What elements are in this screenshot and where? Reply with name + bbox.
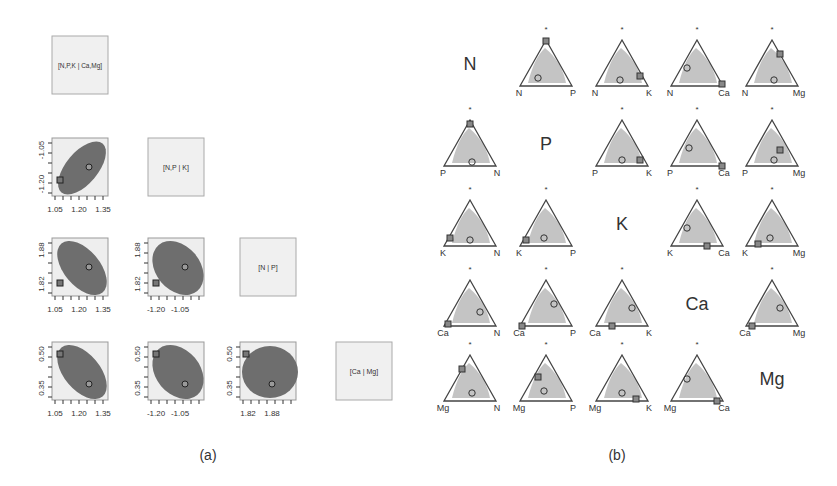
- square-marker: [719, 81, 725, 87]
- x-tick-label: 1.20: [71, 205, 87, 214]
- left-vertex-label: P: [592, 168, 598, 178]
- square-marker: [714, 398, 720, 404]
- y-tick-label: -1.05: [37, 140, 46, 159]
- ternary-plot: *KCa: [667, 185, 730, 258]
- ternary-plot: *NK: [592, 25, 652, 98]
- right-vertex-label: K: [646, 168, 652, 178]
- square-marker: [523, 237, 529, 243]
- x-tick-label: 1.35: [95, 205, 111, 214]
- apex-label: *: [544, 340, 547, 349]
- x-tick-label: 1.82: [240, 409, 256, 418]
- scatter-panel: 1.051.201.35-1.05-1.20: [37, 133, 115, 214]
- y-tick-label: 1.82: [133, 276, 142, 292]
- apex-label: *: [770, 185, 773, 194]
- scatter-panel: 1.051.201.350.500.35: [37, 336, 116, 418]
- x-tick-label: 1.20: [71, 409, 87, 418]
- right-vertex-label: Mg: [793, 168, 806, 178]
- x-tick-label: -1.05: [171, 305, 190, 314]
- left-vertex-label: P: [742, 168, 748, 178]
- ternary-plot: *MgK: [589, 340, 652, 413]
- ternary-plot: *KP: [516, 185, 576, 258]
- y-tick-label: 0.35: [133, 380, 142, 396]
- circle-marker: [182, 264, 188, 270]
- square-marker: [447, 235, 453, 241]
- left-vertex-label: Mg: [664, 403, 677, 413]
- ternary-plot: *CaK: [589, 265, 652, 338]
- ternary-plot: *MgN: [437, 340, 501, 413]
- caption-b: (b): [608, 447, 625, 463]
- scatter-panel: -1.20-1.051.881.82: [133, 231, 214, 314]
- diag-label-box: [N | P]: [240, 238, 296, 296]
- caption-a: (a): [199, 447, 216, 463]
- square-marker: [445, 321, 451, 327]
- square-marker: [637, 157, 643, 163]
- apex-label: *: [695, 340, 698, 349]
- part-label: P: [540, 134, 552, 154]
- x-tick-label: 1.20: [71, 305, 87, 314]
- part-label: K: [616, 214, 628, 234]
- apex-label: *: [695, 185, 698, 194]
- square-marker: [459, 366, 465, 372]
- ternary-plot: *PMg: [742, 105, 805, 178]
- ternary-plot: *MgP: [513, 340, 576, 413]
- circle-marker: [86, 264, 92, 270]
- square-marker: [57, 280, 63, 286]
- right-vertex-label: K: [646, 403, 652, 413]
- svg-text:[N | P]: [N | P]: [258, 264, 277, 272]
- svg-text:[Ca | Mg]: [Ca | Mg]: [350, 368, 378, 376]
- square-marker: [535, 374, 541, 380]
- ternary-plot: *KN: [440, 185, 500, 258]
- circle-marker: [269, 381, 275, 387]
- ternary-plot: *PN: [440, 105, 500, 178]
- x-tick-label: 1.88: [264, 409, 280, 418]
- x-tick-label: -1.20: [147, 305, 166, 314]
- square-marker: [467, 121, 473, 127]
- y-tick-label: 1.88: [37, 242, 46, 258]
- apex-label: *: [770, 25, 773, 34]
- right-vertex-label: Ca: [718, 88, 730, 98]
- right-vertex-label: K: [646, 88, 652, 98]
- ternary-plot: *CaMg: [739, 265, 805, 338]
- left-vertex-label: Ca: [589, 328, 601, 338]
- left-vertex-label: N: [592, 88, 599, 98]
- apex-label: *: [544, 25, 547, 34]
- svg-text:[N,P,K | Ca,Mg]: [N,P,K | Ca,Mg]: [58, 62, 102, 70]
- circle-marker: [86, 381, 92, 387]
- part-label: N: [464, 54, 477, 74]
- ternary-plot: *KMg: [742, 185, 805, 258]
- left-vertex-label: K: [440, 248, 446, 258]
- confidence-ellipse: [242, 346, 298, 398]
- part-label: Mg: [759, 369, 784, 389]
- apex-label: *: [468, 105, 471, 114]
- left-vertex-label: P: [667, 168, 673, 178]
- y-tick-label: -1.20: [37, 174, 46, 193]
- figure: [N,P,K | Ca,Mg][N,P | K][N | P][Ca | Mg]…: [0, 0, 837, 486]
- square-marker: [719, 163, 725, 169]
- ternary-plot: *PCa: [667, 105, 730, 178]
- scatter-panel: -1.20-1.050.500.35: [133, 335, 214, 418]
- left-vertex-label: N: [667, 88, 674, 98]
- square-marker: [543, 38, 549, 44]
- left-vertex-label: N: [516, 88, 523, 98]
- circle-marker: [86, 164, 92, 170]
- right-vertex-label: N: [494, 248, 501, 258]
- x-tick-label: 1.35: [95, 409, 111, 418]
- circle-marker: [182, 381, 188, 387]
- ternary-plot: *MgCa: [664, 340, 730, 413]
- apex-label: *: [620, 265, 623, 274]
- left-vertex-label: P: [440, 168, 446, 178]
- apex-label: *: [695, 25, 698, 34]
- right-vertex-label: P: [570, 248, 576, 258]
- ternary-plot: *CaN: [437, 265, 500, 338]
- x-tick-label: 1.35: [95, 305, 111, 314]
- left-vertex-label: K: [742, 248, 748, 258]
- scatter-panel: 1.821.880.500.35: [225, 342, 298, 418]
- y-tick-label: 0.35: [225, 380, 234, 396]
- y-tick-label: 0.50: [133, 346, 142, 362]
- square-marker: [637, 73, 643, 79]
- right-vertex-label: P: [570, 88, 576, 98]
- scatter-panel: 1.051.201.351.881.82: [37, 232, 116, 314]
- square-marker: [749, 323, 755, 329]
- apex-label: *: [770, 105, 773, 114]
- left-vertex-label: Mg: [589, 403, 602, 413]
